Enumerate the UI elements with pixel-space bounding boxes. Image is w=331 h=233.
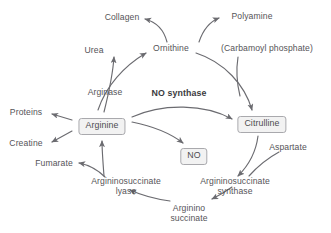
node-aspartate: Aspartate (269, 143, 307, 152)
node-ornithine: Ornithine (153, 44, 189, 53)
pathway-diagram: Collagen Polyamine Urea Ornithine (Carba… (0, 0, 331, 233)
edge-arginine-citrulline (132, 107, 232, 119)
node-carbamoyl-phosphate: (Carbamoyl phosphate) (221, 44, 313, 53)
edge-arginine-proteins (52, 114, 72, 120)
node-argininosuccinate-synthase-line1: Argininosuccinate (200, 177, 270, 186)
edge-ornithine-collagen (145, 19, 167, 42)
node-urea: Urea (84, 46, 103, 55)
node-arginine-box[interactable]: Arginine (78, 118, 125, 135)
edge-ornithine-polyamine (199, 18, 219, 42)
node-collagen: Collagen (105, 13, 140, 22)
edge-lyase-arginine (102, 141, 104, 176)
edge-arginine-no (132, 122, 183, 143)
node-no-box[interactable]: NO (180, 148, 207, 165)
edge-aspartate-argininosuccinate (249, 152, 279, 176)
edge-arginine-urea (104, 57, 114, 112)
node-citrulline-box[interactable]: Citrulline (237, 116, 286, 133)
edge-arginine-creatine (52, 131, 72, 142)
node-fumarate: Fumarate (35, 159, 73, 168)
edge-arginine-ornithine (98, 53, 146, 110)
node-argininosuccinate-lyase-line2: lyase (116, 187, 137, 196)
node-polyamine: Polyamine (231, 12, 272, 21)
node-arginino-succinate-line2: succinate (170, 214, 207, 223)
edge-ornithine-citrulline (196, 53, 252, 110)
edge-carbamoyl-citrulline (237, 57, 240, 96)
node-arginino-succinate-line1: Arginino (173, 204, 205, 213)
node-arginase: Arginase (88, 88, 123, 97)
node-argininosuccinate-lyase-line1: Argininosuccinate (91, 177, 161, 186)
node-creatine: Creatine (9, 139, 42, 148)
node-argininosuccinate-synthase-line2: synthase (217, 187, 252, 196)
node-no-synthase: NO synthase (152, 89, 207, 99)
node-proteins: Proteins (10, 108, 42, 117)
edge-lyase-fumarate (79, 163, 105, 177)
